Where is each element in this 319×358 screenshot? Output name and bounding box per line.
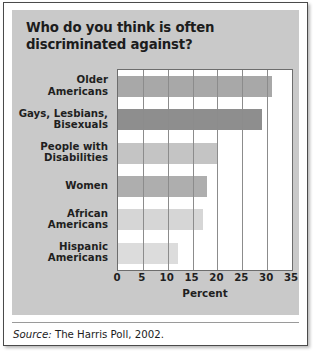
bar-rows — [118, 70, 292, 270]
x-tick-label-5: 5 — [138, 272, 145, 283]
category-label-text: Women — [65, 180, 108, 191]
category-label-text: People withDisabilities — [40, 141, 108, 164]
gridline-25 — [242, 70, 243, 270]
x-tick-label-10: 10 — [160, 272, 174, 283]
bar-row — [118, 203, 292, 236]
bar-row — [118, 137, 292, 170]
category-label-2: People withDisabilities — [12, 136, 113, 169]
chart-title: Who do you think is often discriminated … — [26, 20, 276, 53]
category-label-3: Women — [12, 169, 113, 202]
bar-5 — [118, 243, 178, 264]
bar-row — [118, 103, 292, 136]
x-axis-title: Percent — [117, 287, 293, 299]
footer-divider — [12, 322, 299, 323]
gridline-30 — [267, 70, 268, 270]
source-text: The Harris Poll, 2002. — [55, 329, 164, 340]
category-label-1: Gays, Lesbians,Bisexuals — [12, 102, 113, 135]
source-label: Source: — [13, 329, 52, 340]
x-tick-label-20: 20 — [209, 272, 223, 283]
bar-row — [118, 170, 292, 203]
category-label-list: OlderAmericansGays, Lesbians,BisexualsPe… — [12, 69, 113, 269]
source-note: Source: The Harris Poll, 2002. — [13, 329, 164, 340]
category-label-text: HispanicAmericans — [48, 241, 108, 264]
category-label-0: OlderAmericans — [12, 69, 113, 102]
category-label-4: AfricanAmericans — [12, 202, 113, 235]
category-label-text: AfricanAmericans — [48, 208, 108, 231]
x-tick-label-0: 0 — [113, 272, 120, 283]
category-label-5: HispanicAmericans — [12, 236, 113, 269]
figure-card: Who do you think is often discriminated … — [3, 2, 308, 346]
bar-row — [118, 237, 292, 270]
gridline-5 — [143, 70, 144, 270]
gridline-10 — [168, 70, 169, 270]
category-label-text: Gays, Lesbians,Bisexuals — [19, 108, 108, 131]
x-tick-label-30: 30 — [259, 272, 273, 283]
bar-4 — [118, 209, 203, 230]
bar-row — [118, 70, 292, 103]
gridline-15 — [193, 70, 194, 270]
x-tick-label-25: 25 — [234, 272, 248, 283]
x-tick-label-35: 35 — [284, 272, 298, 283]
gridline-20 — [217, 70, 218, 270]
bar-1 — [118, 109, 262, 130]
category-label-text: OlderAmericans — [48, 74, 108, 97]
plot-area — [117, 69, 293, 271]
x-tick-label-15: 15 — [184, 272, 198, 283]
x-axis-ticks: 05101520253035 — [117, 272, 293, 286]
bar-0 — [118, 76, 272, 97]
bar-3 — [118, 176, 207, 197]
chart-panel: Who do you think is often discriminated … — [12, 10, 299, 315]
